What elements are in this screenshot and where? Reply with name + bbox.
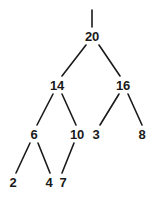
binary-tree-diagram: 20 14 16 6 10 3 8 2 4 7 [0, 0, 160, 198]
tree-node-2: 2 [9, 176, 16, 189]
tree-node-7: 7 [59, 176, 66, 189]
tree-node-14: 14 [50, 79, 64, 92]
tree-edge-e14-10 [62, 94, 76, 125]
tree-node-3: 3 [92, 128, 99, 141]
tree-node-10: 10 [70, 128, 84, 141]
tree-edge-e6-2 [16, 143, 30, 173]
tree-edge-layer [0, 0, 160, 198]
tree-node-8: 8 [138, 128, 145, 141]
tree-edge-e20-14 [62, 45, 86, 76]
tree-node-4: 4 [45, 176, 52, 189]
tree-edge-e16-8 [128, 94, 142, 125]
tree-edge-e14-6 [37, 94, 53, 125]
tree-node-16: 16 [116, 79, 130, 92]
tree-edge-e6-4 [38, 143, 50, 173]
tree-edge-e16-3 [100, 94, 119, 125]
tree-node-6: 6 [30, 128, 37, 141]
tree-edge-e20-16 [99, 45, 120, 76]
tree-node-20: 20 [85, 30, 99, 43]
tree-edge-e10-7 [62, 143, 74, 173]
